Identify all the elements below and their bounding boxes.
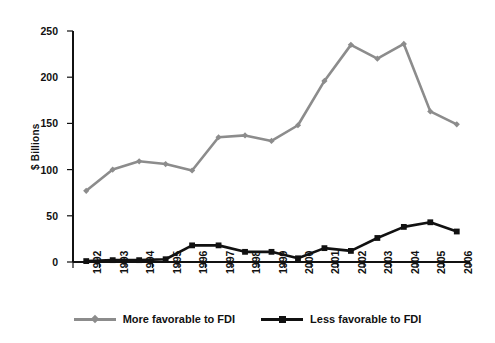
x-axis-tick-label: 1998: [250, 251, 262, 274]
legend-label-more-favorable: More favorable to FDI: [123, 313, 235, 325]
x-axis-tick-label: 1994: [144, 251, 156, 274]
x-axis-tick-label: 1993: [118, 251, 130, 274]
data-point-marker: [322, 245, 328, 251]
x-axis-tick-label: 2002: [356, 251, 368, 274]
series-line-more-favorable: [86, 44, 457, 191]
data-point-marker: [454, 229, 460, 235]
data-point-marker: [348, 248, 354, 254]
legend-swatch-more-favorable: [74, 313, 116, 325]
x-axis-tick-label: 2005: [435, 251, 447, 274]
plot-area: [0, 0, 495, 343]
x-axis-tick-label: 2001: [329, 251, 341, 274]
x-axis-tick-label: 1995: [171, 251, 183, 274]
data-point-marker: [83, 258, 89, 264]
data-point-marker: [269, 249, 275, 255]
data-point-marker: [136, 257, 142, 263]
data-point-marker: [374, 235, 380, 241]
legend-swatch-less-favorable: [261, 313, 303, 325]
legend-label-less-favorable: Less favorable to FDI: [310, 313, 421, 325]
data-point-marker: [242, 132, 248, 138]
data-point-marker: [242, 249, 248, 255]
x-axis-tick-label: 2006: [462, 251, 474, 274]
data-point-marker: [216, 242, 222, 248]
x-axis-tick-label: 1997: [224, 251, 236, 274]
x-axis-tick-label: 1999: [277, 251, 289, 274]
legend-item-more-favorable[interactable]: More favorable to FDI: [74, 313, 235, 325]
x-axis-tick-label: 2000: [303, 251, 315, 274]
x-axis-tick-label: 1992: [91, 251, 103, 274]
data-point-marker: [136, 158, 142, 164]
data-point-marker: [110, 257, 116, 263]
x-axis-tick-label: 2004: [409, 251, 421, 274]
square-marker-icon: [279, 316, 286, 323]
data-point-marker: [189, 242, 195, 248]
x-axis-tick-label: 1996: [197, 251, 209, 274]
data-point-marker: [401, 224, 407, 230]
diamond-marker-icon: [90, 315, 98, 323]
data-point-marker: [295, 255, 301, 261]
legend-item-less-favorable[interactable]: Less favorable to FDI: [261, 313, 421, 325]
chart-legend: More favorable to FDI Less favorable to …: [0, 313, 495, 325]
data-point-marker: [427, 219, 433, 225]
data-point-marker: [163, 256, 169, 262]
data-point-marker: [163, 161, 169, 167]
x-axis-tick-label: 2003: [382, 251, 394, 274]
chart-figure: $ Billions 050100150200250 1992199319941…: [0, 0, 495, 343]
